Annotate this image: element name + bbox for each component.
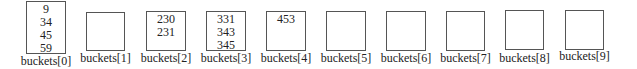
bucket-value: 231 (157, 26, 175, 39)
bucket-label: buckets[1] (80, 52, 131, 65)
bucket-values (327, 12, 365, 13)
bucket-label: buckets[8] (499, 52, 550, 65)
bucket-box-2: 230231 (146, 11, 186, 51)
bucket-box-1 (86, 12, 125, 51)
bucket-label: buckets[5] (321, 52, 372, 65)
bucket-values: 230231 (147, 12, 185, 39)
bucket-box-3: 331343345 (206, 11, 246, 51)
bucket-label: buckets[7] (440, 52, 491, 65)
bucket-values (506, 11, 543, 12)
bucket-box-6 (386, 11, 426, 51)
bucket-label: buckets[2] (141, 52, 192, 65)
bucket-value: 453 (277, 13, 295, 26)
bucket-box-7 (446, 11, 485, 51)
bucket-values: 331343345 (207, 12, 245, 52)
bucket-values (87, 13, 124, 14)
bucket-values (566, 11, 603, 12)
bucket-values (447, 12, 484, 13)
bucket-label: buckets[9] (559, 50, 610, 63)
bucket-box-0: 9344559 (26, 1, 66, 54)
bucket-values: 9344559 (27, 2, 65, 55)
bucket-label: buckets[6] (381, 52, 432, 65)
bucket-label: buckets[4] (261, 52, 312, 65)
bucket-values (387, 12, 425, 13)
bucket-box-5 (326, 11, 366, 51)
bucket-label: buckets[0] (21, 55, 72, 68)
bucket-box-4: 453 (266, 11, 306, 51)
bucket-box-8 (505, 10, 544, 50)
bucket-box-9 (565, 10, 604, 50)
bucket-label: buckets[3] (201, 52, 252, 65)
bucket-values: 453 (267, 12, 305, 26)
